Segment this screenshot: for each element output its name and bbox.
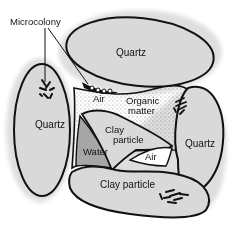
soil-aggregate-diagram: Microcolony Quartz Quartz Quartz Air Org… [0,0,247,237]
quartz-particle-left [14,64,70,196]
label-quartz-top: Quartz [116,47,146,58]
label-clay-particle-bottom: Clay particle [100,179,155,190]
label-air-top: Air [93,93,105,104]
label-air-bottom: Air [145,151,157,162]
label-microcolony: Microcolony [10,16,61,27]
label-quartz-right: Quartz [185,138,215,149]
label-water: Water [83,146,108,157]
label-organic-matter-line2: matter [128,105,155,116]
label-quartz-left: Quartz [35,119,65,130]
label-clay-center-line2: particle [113,134,144,145]
